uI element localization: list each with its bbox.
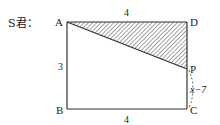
vertex-label-P: P [190,63,196,75]
side-label-PC: x−7 [189,84,207,95]
side-label-BC: 4 [124,114,129,125]
vertex-label-D: D [190,16,198,28]
side-label-AB: 3 [58,61,63,72]
vertex-label-B: B [56,104,63,116]
vertex-label-C: C [190,104,197,116]
vertex-label-A: A [55,16,63,28]
header-label: S君： [8,17,38,30]
side-label-AD: 4 [124,7,129,18]
diagram-canvas: S君： A D P C B 4 3 4 x−7 [0,0,220,125]
